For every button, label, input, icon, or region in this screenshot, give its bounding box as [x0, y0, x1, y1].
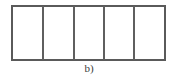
figure-container: b): [0, 0, 178, 79]
figure-caption-label: b): [0, 62, 178, 75]
rectangle-outline: [12, 6, 165, 60]
